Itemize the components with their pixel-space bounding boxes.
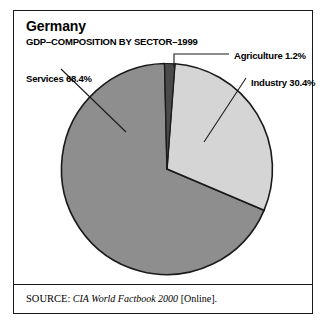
pie-label-agriculture: Agriculture 1.2% [234, 50, 306, 61]
pie-chart: Services 68.4% Agriculture 1.2% Industry… [14, 11, 314, 315]
source-label: SOURCE: [26, 293, 70, 304]
pie-label-services: Services 68.4% [26, 73, 92, 84]
figure-frame: Germany GDP–COMPOSITION BY SECTOR–1999 S… [13, 10, 313, 314]
source-divider [14, 284, 312, 285]
source-note: SOURCE: CIA World Factbook 2000 [Online]… [26, 292, 217, 305]
source-work-title: CIA World Factbook 2000 [73, 293, 178, 304]
pie-label-industry: Industry 30.4% [251, 77, 315, 88]
source-medium: [Online]. [181, 293, 217, 304]
